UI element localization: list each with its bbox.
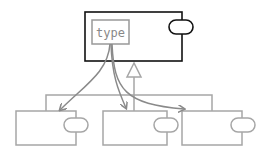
- port-icon: [64, 118, 88, 132]
- port-icon: [231, 118, 255, 132]
- child-component-3[interactable]: [182, 111, 255, 145]
- generalization-triangle-icon: [127, 63, 141, 77]
- child-component-1[interactable]: [16, 111, 88, 145]
- port-icon: [169, 20, 193, 34]
- child-component-2[interactable]: [103, 111, 178, 145]
- type-label: type: [96, 26, 125, 40]
- port-icon: [154, 118, 178, 132]
- type-box[interactable]: type: [92, 20, 129, 44]
- diagram-canvas: type: [0, 0, 269, 159]
- generalization-bracket: [46, 63, 212, 111]
